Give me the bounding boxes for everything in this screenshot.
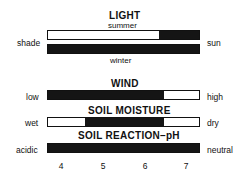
soil-ph-range: [48, 144, 199, 152]
wind-title: WIND: [111, 79, 139, 89]
soil-moisture-bar: [47, 117, 200, 127]
axis-tick-4: 4: [59, 161, 64, 171]
wind-range: [48, 91, 164, 99]
wind-left-label: low: [26, 93, 39, 102]
axis-tick-6: 6: [143, 161, 148, 171]
axis-tick-5: 5: [101, 161, 106, 171]
light-summer-range: [159, 31, 199, 39]
soil-moisture-range: [85, 118, 164, 126]
wind-right-label: high: [207, 93, 223, 102]
light-left-label: shade: [17, 39, 40, 48]
soil-moisture-right-label: dry: [207, 119, 219, 128]
light-right-label: sun: [207, 39, 221, 48]
light-winter-range: [48, 45, 199, 53]
light-summer-bar: [47, 30, 200, 40]
light-winter-label: winter: [110, 57, 131, 65]
axis-tick-7: 7: [184, 161, 189, 171]
soil-ph-left-label: acidic: [16, 146, 38, 155]
soil-ph-right-label: neutral: [207, 146, 233, 155]
wind-bar: [47, 90, 200, 100]
soil-moisture-title: SOIL MOISTURE: [88, 106, 171, 116]
light-winter-bar: [47, 44, 200, 54]
soil-ph-bar: [47, 143, 200, 153]
soil-ph-title: SOIL REACTION–pH: [78, 131, 180, 141]
light-summer-label: summer: [108, 22, 137, 30]
soil-moisture-left-label: wet: [25, 119, 38, 128]
light-title: LIGHT: [109, 11, 141, 21]
